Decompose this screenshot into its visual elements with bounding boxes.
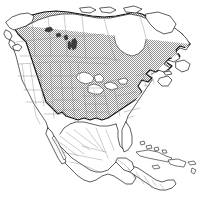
bahamas-4	[162, 150, 167, 153]
hispaniola	[168, 159, 186, 167]
arctic-island-1	[80, 7, 96, 13]
arctic-island-2	[100, 7, 116, 13]
gulf-coast	[60, 122, 116, 134]
caribbean-islands	[136, 141, 196, 174]
bahamas-2	[146, 145, 152, 149]
jamaica	[152, 165, 160, 169]
lesser-antilles	[191, 168, 196, 174]
bahamas-3	[154, 147, 159, 151]
newfoundland	[176, 60, 190, 72]
north-america-map	[0, 0, 202, 202]
alaska-peninsula	[4, 30, 12, 40]
florida-peninsula	[122, 122, 132, 152]
nova-scotia	[158, 76, 172, 86]
bahamas-1	[140, 141, 145, 145]
puerto-rico	[188, 161, 196, 165]
range-map-figure	[0, 0, 202, 202]
arctic-island-3	[124, 6, 142, 13]
prince-edward-island	[164, 71, 172, 75]
